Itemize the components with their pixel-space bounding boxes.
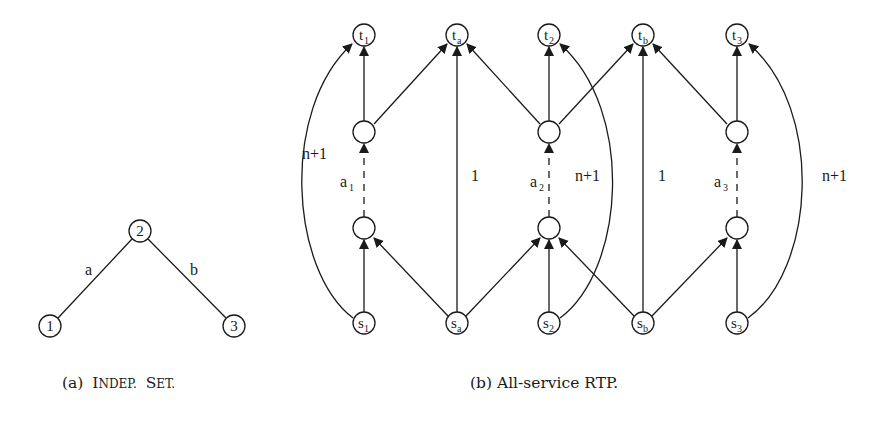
edge-2-3: [148, 239, 226, 318]
label-a2: a 2: [530, 173, 544, 193]
caption-a: (a) INDEP. SET.: [62, 374, 175, 392]
edge-sa-lower1: [374, 238, 448, 316]
node-upper-3: [726, 121, 748, 143]
svg-text:1: 1: [349, 182, 354, 193]
node-upper-1: [353, 121, 375, 143]
panel-a-independent-set: a b 1 2 3 (a) INDEP. SET.: [39, 220, 245, 392]
edge-sa-lower2: [466, 238, 540, 316]
node-3-label: 3: [230, 318, 238, 334]
svg-text:a: a: [457, 323, 462, 334]
label-direct-b: 1: [658, 167, 666, 184]
svg-text:2: 2: [549, 323, 554, 334]
caption-b: (b) All-service RTP.: [470, 374, 618, 392]
edge-sb-lower3: [652, 238, 727, 316]
node-sa: s a: [446, 312, 468, 334]
label-curve-1: n+1: [302, 145, 327, 162]
node-1-label: 1: [46, 318, 54, 334]
svg-text:2: 2: [539, 182, 544, 193]
svg-text:3: 3: [737, 323, 742, 334]
node-lower-1: [353, 217, 375, 239]
node-t1: t 1: [353, 24, 375, 46]
svg-text:1: 1: [364, 35, 369, 46]
svg-text:b: b: [643, 35, 648, 46]
node-t3: t 3: [726, 24, 748, 46]
curve-edge-s3-t3: [748, 44, 802, 318]
node-tb: t b: [632, 24, 654, 46]
edge-upper1-ta: [374, 44, 447, 124]
edge-sb-lower2: [559, 238, 634, 316]
figure-canvas: a b 1 2 3 (a) INDEP. SET.: [0, 0, 872, 427]
node-upper-2: [538, 121, 560, 143]
node-s1: s 1: [353, 312, 375, 334]
label-direct-a: 1: [471, 167, 479, 184]
svg-text:a: a: [457, 35, 462, 46]
node-t2: t 2: [538, 24, 560, 46]
svg-text:1: 1: [364, 323, 369, 334]
label-curve-3: n+1: [822, 167, 847, 184]
panel-b-all-service-rtp: t 1 t a t 2 t b t 3: [302, 24, 847, 392]
svg-text:a: a: [714, 173, 721, 190]
edge-1-2: [58, 239, 132, 318]
svg-text:3: 3: [723, 182, 728, 193]
svg-text:a: a: [340, 173, 347, 190]
edge-upper2-tb: [559, 44, 633, 124]
node-s3: s 3: [726, 312, 748, 334]
svg-text:3: 3: [737, 35, 742, 46]
node-lower-3: [726, 217, 748, 239]
edge-upper3-tb: [653, 44, 727, 124]
node-lower-2: [538, 217, 560, 239]
svg-text:b: b: [643, 323, 648, 334]
node-sb: s b: [632, 312, 654, 334]
label-a3: a 3: [714, 173, 728, 193]
node-2-label: 2: [136, 223, 144, 239]
svg-text:2: 2: [549, 35, 554, 46]
edge-label-b: b: [190, 261, 198, 278]
node-s2: s 2: [538, 312, 560, 334]
svg-text:a: a: [530, 173, 537, 190]
label-a1: a 1: [340, 173, 354, 193]
edge-upper2-ta: [467, 44, 540, 124]
edge-label-a: a: [85, 261, 92, 278]
label-curve-2: n+1: [575, 167, 600, 184]
node-ta: t a: [446, 24, 468, 46]
